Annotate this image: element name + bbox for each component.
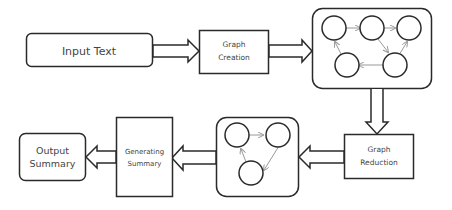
graph-reduction-label-line1: Graph [367, 145, 390, 154]
graph-creation-box: Graph Creation [200, 31, 269, 74]
generating-summary-label-line1: Generating [125, 148, 164, 156]
arrow-generating-to-output [86, 146, 116, 168]
input-text-label: Input Text [62, 45, 117, 58]
arrow-reduction-to-reduced-graph [299, 146, 344, 168]
graph-node-5 [383, 53, 407, 77]
graph-node-3 [397, 16, 421, 40]
output-summary-box: Output Summary [20, 134, 86, 181]
reduced-node-2 [266, 123, 290, 147]
arrow-input-to-creation [153, 40, 199, 62]
reduced-node-1 [225, 123, 249, 147]
reduced-graph-box [217, 118, 299, 197]
generating-summary-label-line2: Summary [128, 160, 162, 168]
arrow-reduced-graph-to-generating [172, 146, 216, 170]
output-summary-label-line1: Output [36, 145, 69, 156]
graph-node-2 [360, 16, 384, 40]
input-text-box: Input Text [27, 34, 153, 67]
graph-node-4 [335, 53, 359, 77]
graph-creation-label-line1: Graph [222, 40, 245, 49]
graph-reduction-label-line2: Reduction [360, 158, 398, 167]
graph-reduction-box: Graph Reduction [345, 135, 414, 179]
graph-node-1 [322, 16, 346, 40]
full-graph-box [313, 9, 432, 89]
summarization-pipeline-diagram: Input Text Graph Creation Graph Reductio… [0, 0, 452, 210]
generating-summary-box: Generating Summary [117, 118, 173, 197]
arrow-creation-to-graph [269, 40, 312, 62]
output-summary-label-line2: Summary [30, 158, 76, 169]
arrow-graph-to-reduction [366, 89, 388, 134]
graph-creation-label-line2: Creation [218, 53, 250, 62]
reduced-node-3 [239, 161, 263, 185]
